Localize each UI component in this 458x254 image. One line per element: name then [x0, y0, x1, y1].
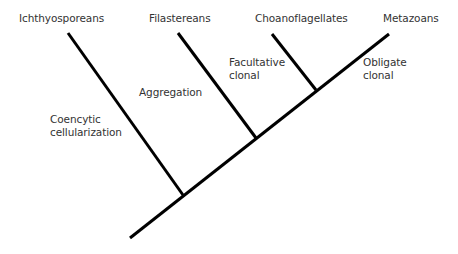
trait-label-coencytic-cellularization: Coencytic cellularization	[50, 113, 122, 139]
taxon-label-ichthyosporeans: Ichthyosporeans	[19, 12, 104, 25]
trait-line: Obligate	[363, 56, 407, 69]
trait-label-aggregation: Aggregation	[139, 86, 202, 99]
trait-label-facultative-clonal: Facultative clonal	[229, 56, 285, 82]
taxon-label-choanoflagellates: Choanoflagellates	[255, 12, 348, 25]
trait-line: clonal	[363, 69, 407, 82]
trait-line: cellularization	[50, 126, 122, 139]
taxon-label-metazoans: Metazoans	[383, 12, 439, 25]
trait-line: clonal	[229, 69, 285, 82]
trait-label-obligate-clonal: Obligate clonal	[363, 56, 407, 82]
taxon-label-filastereans: Filastereans	[149, 12, 211, 25]
trait-line: Coencytic	[50, 113, 122, 126]
trait-line: Aggregation	[139, 86, 202, 99]
trait-line: Facultative	[229, 56, 285, 69]
